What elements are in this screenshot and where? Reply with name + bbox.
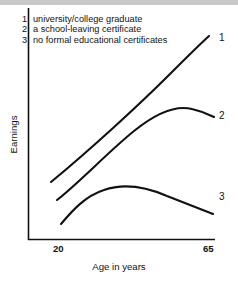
- legend-item-number: 3: [22, 35, 33, 45]
- legend-item-label: no formal educational certificates: [33, 35, 202, 45]
- legend-item-number: 1: [22, 14, 33, 24]
- legend-item: 2 a school-leaving certificate: [22, 24, 202, 34]
- x-axis-tick-min: 20: [53, 243, 64, 254]
- curve-end-label-3: 3: [219, 191, 225, 202]
- legend-item: 3 no formal educational certificates: [22, 35, 202, 45]
- legend: 1 university/college graduate 2 a school…: [22, 14, 202, 45]
- legend-item-label: university/college graduate: [33, 14, 202, 24]
- y-axis-label: Earnings: [8, 102, 19, 168]
- curve-end-label-1: 1: [219, 32, 225, 43]
- legend-item-number: 2: [22, 24, 33, 34]
- curve-3-no-formal-educational-certificates: [61, 186, 213, 224]
- x-axis-label: Age in years: [0, 261, 238, 272]
- curve-end-label-2: 2: [219, 110, 225, 121]
- chart-figure: 1 university/college graduate 2 a school…: [0, 0, 238, 281]
- legend-item-label: a school-leaving certificate: [33, 24, 202, 34]
- legend-item: 1 university/college graduate: [22, 14, 202, 24]
- x-axis-tick-max: 65: [203, 243, 214, 254]
